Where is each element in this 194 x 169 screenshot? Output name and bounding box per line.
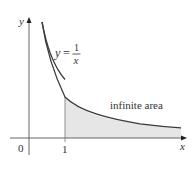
curve-label-denominator: x [73, 54, 79, 66]
x-axis-label: x [179, 140, 185, 152]
infinite-area-diagram: y x 0 1 y = 1 x infinite area [0, 0, 194, 169]
y-axis-label: y [18, 15, 24, 27]
tick-label-one: 1 [62, 143, 68, 155]
origin-label: 0 [18, 142, 24, 154]
curve-main [42, 22, 181, 128]
y-axis-arrow-icon [27, 17, 32, 23]
curve-label-lhs: y [54, 46, 61, 60]
curve-label-equals: = [63, 46, 70, 60]
curve-label-numerator: 1 [74, 42, 79, 53]
infinite-area-label: infinite area [110, 99, 163, 111]
